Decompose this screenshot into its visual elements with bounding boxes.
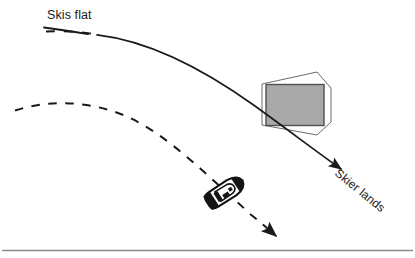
- boat-wake-path-tail: [250, 214, 276, 236]
- ramp-body: [266, 85, 324, 126]
- diagram-svg: [0, 0, 415, 258]
- label-skis-flat: Skis flat: [47, 8, 92, 22]
- diagram-canvas: Skis flat Skier lands: [0, 0, 415, 258]
